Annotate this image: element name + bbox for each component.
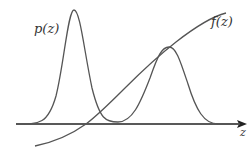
figure: p(z) f(z) z <box>0 0 252 157</box>
density-label: p(z) <box>34 21 59 36</box>
function-curve <box>35 13 226 146</box>
function-label: f(z) <box>210 14 233 29</box>
axis-label: z <box>239 126 246 139</box>
